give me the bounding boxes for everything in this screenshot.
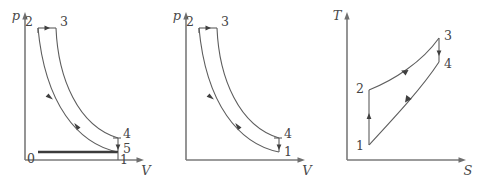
- point-label-4: 4: [444, 56, 452, 71]
- arrowhead-1-to-2: [46, 94, 53, 100]
- point-label-3: 3: [221, 14, 229, 29]
- arrowhead-1-to-2: [207, 94, 214, 100]
- point-label-4: 4: [284, 126, 292, 141]
- x-axis-label: S: [464, 163, 473, 178]
- point-label-3: 3: [444, 28, 452, 43]
- point-label-2: 2: [356, 81, 364, 96]
- panel-pv-open-cycle: 0 1 2 3 4 5 p V: [0, 0, 161, 182]
- x-axis-arrowhead: [298, 157, 306, 162]
- arrowhead-4-to-1: [277, 145, 282, 150]
- y-axis-label: T: [333, 8, 343, 23]
- x-axis-arrowhead: [459, 157, 467, 162]
- y-axis-label: p: [12, 8, 21, 23]
- x-axis-label: V: [302, 163, 313, 178]
- panel-2-canvas: 2 3 4 1 p V: [161, 0, 322, 182]
- curve-3-to-4: [217, 28, 279, 138]
- curve-4-to-1: [369, 62, 439, 145]
- panel-pv-closed-cycle: 2 3 4 1 p V: [161, 0, 322, 182]
- figure-container: 0 1 2 3 4 5 p V: [0, 0, 483, 182]
- x-axis-arrowhead: [137, 157, 145, 162]
- arrowhead-1-to-2: [367, 113, 372, 119]
- point-label-0: 0: [27, 151, 35, 166]
- point-label-2: 2: [25, 14, 33, 29]
- arrowhead-2-to-3: [206, 26, 212, 31]
- curve-2-to-3: [369, 38, 439, 90]
- y-axis-label: p: [173, 8, 182, 23]
- arrowhead-2-to-3: [45, 26, 51, 31]
- point-label-2: 2: [186, 14, 194, 29]
- y-axis-arrowhead: [344, 12, 349, 20]
- point-label-3: 3: [60, 14, 68, 29]
- point-label-1: 1: [284, 144, 292, 159]
- point-label-1: 1: [356, 138, 364, 153]
- arrowhead-3-to-4: [437, 51, 442, 56]
- point-label-4: 4: [123, 126, 131, 141]
- point-label-5: 5: [123, 141, 131, 156]
- panel-ts-closed-cycle: 1 2 3 4 T S: [322, 0, 483, 182]
- curve-3-to-4: [56, 28, 118, 138]
- panel-1-canvas: 0 1 2 3 4 5 p V: [0, 0, 161, 182]
- arrowhead-4-to-5: [116, 145, 121, 150]
- x-axis-label: V: [141, 163, 152, 178]
- panel-3-canvas: 1 2 3 4 T S: [322, 0, 483, 182]
